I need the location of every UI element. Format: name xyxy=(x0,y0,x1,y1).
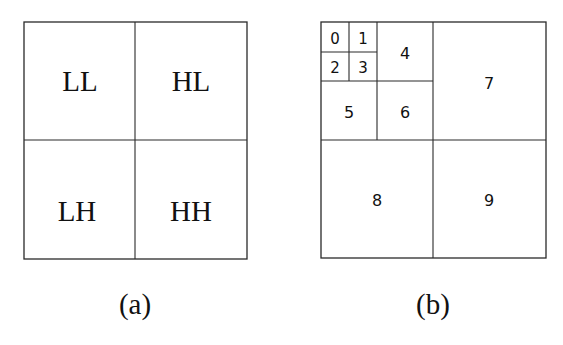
subband-ll-label: LL xyxy=(62,65,97,97)
wavelet-decomposition-diagram: LL HL LH HH (a) 0 1 2 3 4 5 6 7 8 9 (b) xyxy=(0,0,563,345)
subband-1-label: 1 xyxy=(358,30,368,48)
panel-a: LL HL LH HH (a) xyxy=(24,22,247,321)
subband-hl-label: HL xyxy=(172,65,211,97)
panel-b-caption: (b) xyxy=(416,288,450,321)
subband-2-label: 2 xyxy=(330,59,340,77)
panel-a-caption: (a) xyxy=(119,288,151,321)
subband-8-label: 8 xyxy=(372,191,382,210)
subband-9-label: 9 xyxy=(484,191,494,210)
subband-6-label: 6 xyxy=(400,103,410,122)
subband-3-label: 3 xyxy=(358,59,368,77)
panel-b: 0 1 2 3 4 5 6 7 8 9 (b) xyxy=(321,22,546,321)
subband-lh-label: LH xyxy=(58,195,97,227)
subband-hh-label: HH xyxy=(170,195,212,227)
subband-5-label: 5 xyxy=(344,103,354,122)
subband-4-label: 4 xyxy=(400,44,410,63)
subband-0-label: 0 xyxy=(330,30,340,48)
subband-7-label: 7 xyxy=(484,74,494,93)
